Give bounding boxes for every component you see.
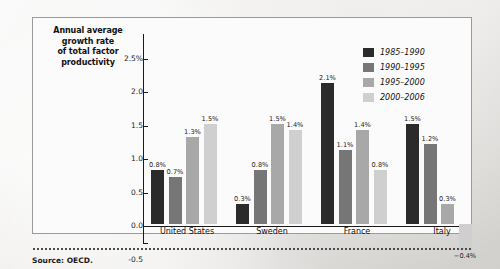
y-axis-tick-row: 0.5 [95, 193, 143, 194]
plot-area: Annual average growth rate of total fact… [33, 18, 471, 233]
bar[interactable] [254, 170, 267, 224]
bar-value-label: 2.1% [315, 74, 341, 82]
bar-group: 2.1%1.1%1.4%0.8%France [321, 16, 393, 233]
y-axis-tick [143, 59, 148, 60]
category-label: Italy [406, 227, 478, 236]
y-axis-tick-label: 2.5% [103, 54, 143, 63]
y-axis-tick-label: 0.0 [103, 221, 143, 230]
y-axis-tick-row: 0.0 [95, 226, 143, 227]
y-axis-tick-row: 2.5% [95, 59, 143, 60]
bar[interactable] [186, 137, 199, 224]
bar[interactable] [356, 130, 369, 224]
bar[interactable] [424, 144, 437, 224]
chart-figure-frame: Annual average growth rate of total fact… [32, 17, 472, 234]
bar-value-label: 1.5% [400, 115, 426, 123]
y-axis-tick-row: 2.0 [95, 92, 143, 93]
bar[interactable] [236, 204, 249, 224]
bar-value-label: 0.3% [230, 195, 256, 203]
y-axis-tick-label: 1.0 [103, 154, 143, 163]
bar-value-label: 0.8% [367, 161, 393, 169]
y-axis-tick-row: -0.5 [95, 260, 143, 261]
bar-value-label: −0.4% [452, 252, 478, 260]
bar[interactable] [374, 170, 387, 224]
y-axis-tick-label: 0.5 [103, 188, 143, 197]
bar-value-label: 1.3% [180, 128, 206, 136]
bar-value-label: 0.7% [162, 168, 188, 176]
bar-value-label: 0.3% [435, 195, 461, 203]
y-axis-tick-row: 1.0 [95, 159, 143, 160]
dotted-rule [32, 248, 472, 250]
source-note: Source: OECD. [32, 256, 93, 265]
y-axis-tick-label: -0.5 [103, 255, 143, 264]
bar[interactable] [441, 204, 454, 224]
y-axis-spine-negative [143, 226, 144, 243]
bar-value-label: 1.1% [332, 141, 358, 149]
bar-group: 0.3%0.8%1.5%1.4%Sweden [236, 16, 308, 233]
bar[interactable] [321, 83, 334, 224]
y-axis-tick [143, 193, 148, 194]
y-axis-spine [143, 34, 144, 226]
category-label: Sweden [236, 227, 308, 236]
axis-title-line-2: growth rate [39, 37, 137, 48]
y-axis-tick-label: 1.5 [103, 121, 143, 130]
bar-value-label: 1.4% [282, 121, 308, 129]
bar-value-label: 1.4% [350, 121, 376, 129]
bar[interactable] [271, 124, 284, 225]
bar[interactable] [339, 150, 352, 224]
y-axis-tick [143, 92, 148, 93]
category-label: United States [151, 227, 223, 236]
bar-value-label: 0.8% [247, 161, 273, 169]
bar-value-label: 1.5% [197, 115, 223, 123]
bar-group: 0.8%0.7%1.3%1.5%United States [151, 16, 223, 233]
bar-group: 1.5%1.2%0.3%−0.4%Italy [406, 16, 478, 233]
y-axis-tick [143, 126, 148, 127]
bar-value-label: 1.2% [417, 135, 443, 143]
y-axis-tick-row: 1.5 [95, 126, 143, 127]
y-axis-tick [143, 159, 148, 160]
axis-title-line-1: Annual average [39, 26, 137, 37]
y-axis-tick--0.5 [143, 243, 148, 244]
bar[interactable] [204, 124, 217, 225]
y-axis-tick-label: 2.0 [103, 87, 143, 96]
bar[interactable] [151, 170, 164, 224]
bar[interactable] [169, 177, 182, 224]
category-label: France [321, 227, 393, 236]
bar[interactable] [289, 130, 302, 224]
